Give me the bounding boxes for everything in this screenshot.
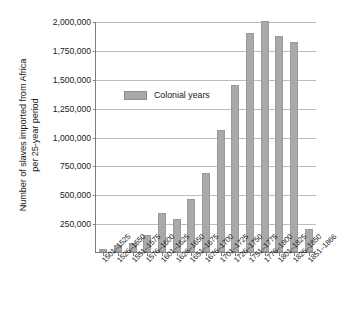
x-axis-tick-labels: 1501–15251526–15501551–15751576–16001601… [95, 258, 340, 316]
bar [275, 36, 283, 252]
y-tick-mark [93, 80, 96, 81]
bar [231, 85, 239, 252]
plot-area [95, 22, 315, 253]
y-tick-mark [93, 195, 96, 196]
y-tick-label: 1,000,000 [21, 133, 91, 143]
y-tick-label: 1,250,000 [21, 104, 91, 114]
bar [217, 130, 225, 252]
chart-legend: Colonial years [124, 90, 210, 100]
y-tick-mark [93, 109, 96, 110]
y-tick-mark [93, 51, 96, 52]
y-tick-mark [93, 138, 96, 139]
y-tick-label: 250,000 [21, 219, 91, 229]
bar [290, 42, 298, 252]
y-tick-mark [93, 166, 96, 167]
legend-swatch-colonial-years [124, 91, 147, 100]
y-tick-label: 1,500,000 [21, 75, 91, 85]
bar [246, 33, 254, 252]
y-tick-label: 750,000 [21, 161, 91, 171]
y-tick-mark [93, 22, 96, 23]
y-tick-label: 500,000 [21, 190, 91, 200]
gridline [96, 22, 316, 23]
y-tick-label: 2,000,000 [21, 17, 91, 27]
y-tick-label: 1,750,000 [21, 46, 91, 56]
y-tick-mark [93, 224, 96, 225]
bar [261, 21, 269, 252]
bar-chart-figure: Number of slaves imported from Africa pe… [0, 0, 340, 316]
legend-label-colonial-years: Colonial years [154, 90, 210, 100]
